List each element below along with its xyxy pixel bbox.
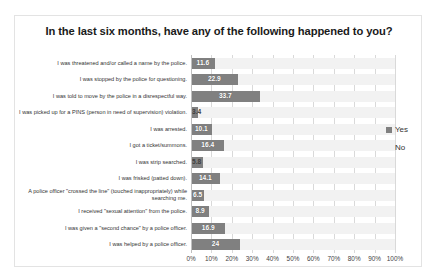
bar-segment-yes[interactable]: 8.9: [191, 206, 209, 217]
bar-row[interactable]: 11.6: [191, 58, 395, 69]
bar-row[interactable]: 6.5: [191, 190, 395, 201]
bar-segment-yes[interactable]: 24: [191, 239, 240, 250]
bar-row[interactable]: 14.1: [191, 173, 395, 184]
bar-value-label: 16.9: [202, 225, 215, 232]
bar-segment-no[interactable]: [212, 124, 395, 135]
bar-value-label: 16.4: [201, 142, 214, 149]
legend-swatch-yes-icon: [386, 127, 392, 133]
x-tick-label: 70%: [327, 255, 340, 262]
bar-value-label: 6.5: [193, 192, 202, 199]
category-label: I was picked up for a PINS (person in ne…: [19, 105, 187, 122]
category-label: I was threatened and/or called a name by…: [19, 55, 187, 72]
bar-segment-yes[interactable]: 16.4: [191, 140, 224, 151]
bar-segment-no[interactable]: [225, 223, 395, 234]
bar-segment-yes[interactable]: 33.7: [191, 91, 260, 102]
x-tick-label: 0%: [186, 255, 195, 262]
chart-legend: Yes No: [386, 126, 436, 162]
bar-segment-no[interactable]: [224, 140, 395, 151]
category-label: I was helped by a police officer.: [19, 237, 187, 254]
legend-item-yes[interactable]: Yes: [386, 126, 436, 134]
chart-card: In the last six months, have any of the …: [14, 15, 422, 267]
bar-segment-no[interactable]: [215, 58, 395, 69]
bar-row[interactable]: 24: [191, 239, 395, 250]
bar-segment-yes[interactable]: 11.6: [191, 58, 215, 69]
bar-segment-no[interactable]: [260, 91, 395, 102]
x-tick-label: 100%: [387, 255, 403, 262]
bar-row[interactable]: 33.7: [191, 91, 395, 102]
category-label: I got a ticket/summons.: [19, 138, 187, 155]
x-tick-label: 50%: [287, 255, 300, 262]
bar-rows: 11.622.933.73.410.116.45.814.16.58.916.9…: [191, 55, 395, 253]
bar-segment-yes[interactable]: 14.1: [191, 173, 220, 184]
category-label: I received "sexual attention" from the p…: [19, 204, 187, 221]
category-label: A police officer "crossed the line" (tou…: [19, 187, 187, 204]
bar-row[interactable]: 3.4: [191, 107, 395, 118]
bar-value-label: 3.4: [192, 109, 201, 116]
chart-title: In the last six months, have any of the …: [15, 25, 423, 37]
legend-label-no: No: [395, 144, 405, 152]
legend-swatch-no-icon: [386, 145, 392, 151]
bar-row[interactable]: 10.1: [191, 124, 395, 135]
bar-value-label: 24: [212, 241, 219, 248]
category-label: I was strip searched.: [19, 154, 187, 171]
bar-segment-no[interactable]: [238, 74, 395, 85]
bar-row[interactable]: 8.9: [191, 206, 395, 217]
bar-value-label: 14.1: [199, 175, 212, 182]
category-label: I was told to move by the police in a di…: [19, 88, 187, 105]
category-label: I was arrested.: [19, 121, 187, 138]
bar-segment-no[interactable]: [240, 239, 395, 250]
bar-segment-yes[interactable]: 5.8: [191, 157, 203, 168]
x-tick-label: 60%: [307, 255, 320, 262]
bar-value-label: 11.6: [197, 60, 209, 67]
plot-area: 11.622.933.73.410.116.45.814.16.58.916.9…: [191, 55, 395, 253]
value-axis: 0%10%20%30%40%50%60%70%80%90%100%: [191, 255, 395, 269]
bar-row[interactable]: 16.9: [191, 223, 395, 234]
bar-segment-yes[interactable]: 6.5: [191, 190, 204, 201]
bar-row[interactable]: 5.8: [191, 157, 395, 168]
category-label: I was stopped by the police for question…: [19, 72, 187, 89]
bar-value-label: 10.1: [195, 126, 208, 133]
bar-segment-yes[interactable]: 3.4: [191, 107, 198, 118]
x-tick-label: 10%: [205, 255, 218, 262]
x-tick-label: 20%: [225, 255, 238, 262]
bar-value-label: 5.8: [192, 159, 201, 166]
bar-row[interactable]: 16.4: [191, 140, 395, 151]
category-label: I was frisked (patted down).: [19, 171, 187, 188]
bar-value-label: 33.7: [219, 93, 232, 100]
x-tick-label: 90%: [368, 255, 381, 262]
bar-row[interactable]: 22.9: [191, 74, 395, 85]
bar-segment-no[interactable]: [209, 206, 395, 217]
bar-value-label: 22.9: [208, 76, 221, 83]
chart-screenshot: In the last six months, have any of the …: [0, 0, 437, 278]
bar-segment-yes[interactable]: 22.9: [191, 74, 238, 85]
value-axis-line: [191, 55, 192, 253]
x-tick-label: 40%: [266, 255, 279, 262]
top-edge-artifact: [0, 0, 437, 12]
bar-segment-no[interactable]: [204, 190, 395, 201]
legend-item-no[interactable]: No: [386, 144, 436, 152]
bar-value-label: 8.9: [195, 208, 204, 215]
bar-segment-yes[interactable]: 10.1: [191, 124, 212, 135]
x-tick-label: 80%: [348, 255, 361, 262]
category-label: I was given a "second chance" by a polic…: [19, 220, 187, 237]
legend-label-yes: Yes: [395, 126, 408, 134]
x-tick-label: 30%: [246, 255, 259, 262]
category-axis: I was threatened and/or called a name by…: [19, 55, 189, 253]
bar-segment-no[interactable]: [198, 107, 395, 118]
bar-segment-no[interactable]: [203, 157, 395, 168]
bar-segment-yes[interactable]: 16.9: [191, 223, 225, 234]
bar-segment-no[interactable]: [220, 173, 395, 184]
